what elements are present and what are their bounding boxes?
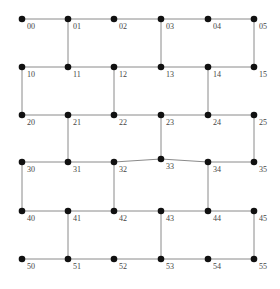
node-label-02: 02 — [119, 22, 127, 31]
node-label-41: 41 — [73, 214, 81, 223]
node-52 — [111, 256, 118, 263]
node-04 — [205, 16, 212, 23]
node-label-32: 32 — [119, 165, 127, 174]
node-42 — [111, 208, 118, 215]
node-label-53: 53 — [166, 262, 174, 271]
node-01 — [65, 16, 72, 23]
node-label-11: 11 — [73, 70, 81, 79]
node-12 — [111, 64, 118, 71]
node-11 — [65, 64, 72, 71]
grid-graph-diagram: 0001020304051011121314152021222324253031… — [0, 0, 280, 289]
node-label-23: 23 — [166, 118, 174, 127]
node-30 — [19, 159, 26, 166]
node-label-50: 50 — [27, 262, 35, 271]
node-55 — [251, 256, 258, 263]
node-label-21: 21 — [73, 118, 81, 127]
node-label-34: 34 — [213, 165, 221, 174]
node-15 — [251, 64, 258, 71]
node-44 — [205, 208, 212, 215]
node-label-33: 33 — [166, 162, 174, 171]
node-label-45: 45 — [259, 214, 267, 223]
node-label-51: 51 — [73, 262, 81, 271]
node-label-24: 24 — [213, 118, 221, 127]
node-10 — [19, 64, 26, 71]
node-label-04: 04 — [213, 22, 221, 31]
node-label-15: 15 — [259, 70, 267, 79]
node-43 — [158, 208, 165, 215]
node-25 — [251, 112, 258, 119]
node-label-01: 01 — [73, 22, 81, 31]
node-label-35: 35 — [259, 165, 267, 174]
node-label-22: 22 — [119, 118, 127, 127]
node-54 — [205, 256, 212, 263]
node-label-14: 14 — [213, 70, 221, 79]
node-label-43: 43 — [166, 214, 174, 223]
node-label-10: 10 — [27, 70, 35, 79]
node-label-12: 12 — [119, 70, 127, 79]
node-24 — [205, 112, 212, 119]
node-label-52: 52 — [119, 262, 127, 271]
node-02 — [111, 16, 118, 23]
node-14 — [205, 64, 212, 71]
node-23 — [158, 112, 165, 119]
node-label-25: 25 — [259, 118, 267, 127]
edge-32-33 — [114, 159, 161, 162]
node-label-42: 42 — [119, 214, 127, 223]
node-label-55: 55 — [259, 262, 267, 271]
node-50 — [19, 256, 26, 263]
node-label-40: 40 — [27, 214, 35, 223]
node-label-03: 03 — [166, 22, 174, 31]
node-label-31: 31 — [73, 165, 81, 174]
node-22 — [111, 112, 118, 119]
node-03 — [158, 16, 165, 23]
node-13 — [158, 64, 165, 71]
node-31 — [65, 159, 72, 166]
node-label-20: 20 — [27, 118, 35, 127]
node-layer — [19, 16, 258, 263]
label-layer: 0001020304051011121314152021222324253031… — [27, 22, 267, 271]
edge-layer — [22, 19, 254, 259]
node-33 — [158, 156, 165, 163]
node-20 — [19, 112, 26, 119]
node-label-05: 05 — [259, 22, 267, 31]
node-label-13: 13 — [166, 70, 174, 79]
node-45 — [251, 208, 258, 215]
node-40 — [19, 208, 26, 215]
node-00 — [19, 16, 26, 23]
node-label-54: 54 — [213, 262, 221, 271]
node-51 — [65, 256, 72, 263]
node-label-00: 00 — [27, 22, 35, 31]
node-label-30: 30 — [27, 165, 35, 174]
node-34 — [205, 159, 212, 166]
node-53 — [158, 256, 165, 263]
node-32 — [111, 159, 118, 166]
node-21 — [65, 112, 72, 119]
node-41 — [65, 208, 72, 215]
node-35 — [251, 159, 258, 166]
node-label-44: 44 — [213, 214, 221, 223]
node-05 — [251, 16, 258, 23]
